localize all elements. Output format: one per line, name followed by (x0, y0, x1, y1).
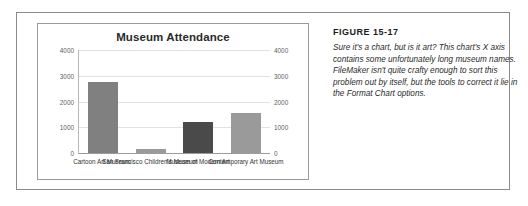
figure-caption-text: Sure it's a chart, but is it art? This c… (333, 42, 523, 100)
x-axis-label: Contemporary Art Museum (208, 157, 283, 166)
y-tick-right: 3000 (274, 72, 288, 79)
y-tick-right: 2000 (274, 98, 288, 105)
y-tick-left: 0 (70, 150, 74, 157)
y-tick-left: 2000 (60, 98, 74, 105)
y-axis-right: 40003000200010000 (274, 50, 306, 154)
bar (136, 149, 166, 153)
y-tick-right: 1000 (274, 124, 288, 131)
chart-plot-wrapper: 40003000200010000 40003000200010000 Cart… (38, 50, 310, 180)
y-tick-left: 1000 (60, 124, 74, 131)
x-axis-labels: Cartoon Art MuseumSan Francisco Children… (78, 156, 270, 174)
y-tick-left: 3000 (60, 72, 74, 79)
bar (183, 122, 213, 153)
y-tick-right: 0 (274, 150, 278, 157)
y-tick-left: 4000 (60, 47, 74, 54)
figure-number: FIGURE 15-17 (333, 27, 523, 37)
y-tick-right: 4000 (274, 47, 288, 54)
bar-series (79, 50, 270, 153)
chart-container: Museum Attendance 40003000200010000 4000… (37, 23, 309, 180)
bar (231, 113, 261, 153)
y-axis-left: 40003000200010000 (42, 50, 74, 154)
chart-title: Museum Attendance (38, 31, 308, 43)
plot-area (78, 50, 270, 154)
figure-page-frame: Museum Attendance 40003000200010000 4000… (16, 12, 510, 190)
bar (88, 82, 118, 153)
figure-caption: FIGURE 15-17 Sure it's a chart, but is i… (333, 27, 523, 100)
